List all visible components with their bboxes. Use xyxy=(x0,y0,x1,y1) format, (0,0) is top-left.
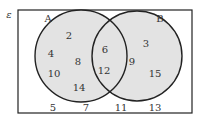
set-b-label: B xyxy=(156,14,163,24)
element-7: 7 xyxy=(83,103,89,113)
element-2: 2 xyxy=(66,31,72,41)
venn-diagram xyxy=(0,0,201,120)
set-a-label: A xyxy=(44,14,51,24)
element-12: 12 xyxy=(98,66,111,76)
element-11: 11 xyxy=(115,103,128,113)
element-15: 15 xyxy=(149,69,162,79)
element-13: 13 xyxy=(149,103,162,113)
element-6: 6 xyxy=(102,45,108,55)
element-10: 10 xyxy=(48,69,61,79)
element-9: 9 xyxy=(129,57,135,67)
element-4: 4 xyxy=(48,49,54,59)
element-14: 14 xyxy=(73,83,86,93)
universal-set-label: ε xyxy=(6,10,11,20)
element-5: 5 xyxy=(50,103,56,113)
element-8: 8 xyxy=(75,57,81,67)
element-3: 3 xyxy=(143,39,149,49)
